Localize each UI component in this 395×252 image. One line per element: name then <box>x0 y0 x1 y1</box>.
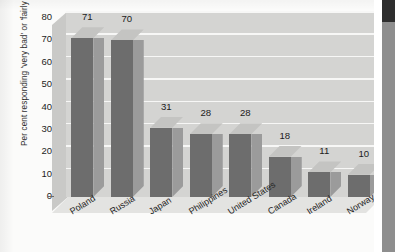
y-tick-label: 50 <box>30 79 52 89</box>
bar <box>150 128 172 197</box>
bar-value-label: 10 <box>344 149 384 159</box>
bar-value-label: 11 <box>304 146 344 156</box>
bar-value-label: 18 <box>265 131 305 141</box>
bar-top-face <box>111 29 144 40</box>
bar-value-label: 31 <box>146 102 186 112</box>
bar-series <box>52 11 382 197</box>
y-tick-label: 40 <box>30 102 52 112</box>
bar-front-face <box>111 40 133 197</box>
bar-front-face <box>71 38 93 197</box>
y-tick-label: 60 <box>30 57 52 67</box>
bar-top-face <box>190 123 223 134</box>
chart-screenshot: Per cent responding 'very bad' or 'fairl… <box>0 0 395 252</box>
bar-value-label: 70 <box>107 14 147 24</box>
plot-area <box>52 11 382 201</box>
scan-strip-dark <box>382 0 395 22</box>
bar <box>71 38 93 197</box>
bar-side-face <box>93 38 104 197</box>
scan-margin <box>374 0 382 252</box>
y-tick-label: 30 <box>30 124 52 134</box>
bar-top-face <box>308 161 341 172</box>
bar-side-face <box>330 172 341 197</box>
y-tick-label: 10 <box>30 169 52 179</box>
scan-strip-grey <box>382 22 395 252</box>
bar <box>229 134 251 197</box>
bar-side-face <box>133 40 144 197</box>
bar <box>111 40 133 197</box>
bar-top-face <box>150 117 183 128</box>
bar-value-label: 71 <box>67 12 107 22</box>
x-axis-category-labels: PolandRussiaJapanPhilippinesUnited State… <box>0 200 395 252</box>
bar <box>190 134 212 197</box>
bar-front-face <box>229 134 251 197</box>
bar-value-label: 28 <box>225 108 265 118</box>
bar-front-face <box>190 134 212 197</box>
bar-top-face <box>269 146 302 157</box>
bar-top-face <box>229 123 262 134</box>
bar-front-face <box>150 128 172 197</box>
y-tick-label: 80 <box>30 12 52 22</box>
bar-top-face <box>71 27 104 38</box>
bar-value-label: 28 <box>186 108 226 118</box>
bar-side-face <box>172 128 183 197</box>
y-tick-label: 20 <box>30 146 52 156</box>
axis-baseline-tick <box>48 196 54 197</box>
y-tick-label: 70 <box>30 34 52 44</box>
